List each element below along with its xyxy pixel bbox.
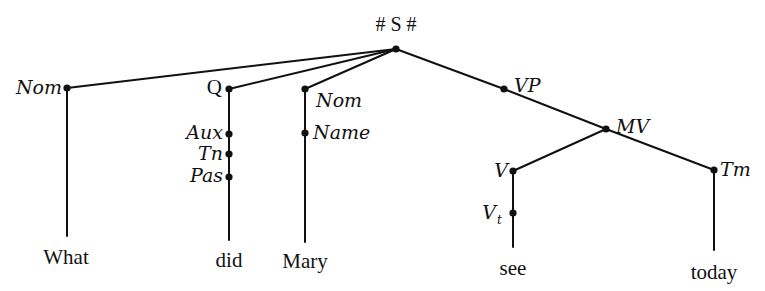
label-root-s: # S # (375, 13, 416, 35)
terminal-words: What did Mary see today (43, 245, 738, 284)
label-nom1: Nom (15, 76, 62, 98)
node-nom2 (301, 85, 308, 92)
word-today: today (691, 260, 738, 284)
node-nom1 (63, 84, 70, 91)
node-vt (509, 209, 516, 216)
edge-mv-v (513, 129, 606, 171)
node-q (225, 85, 232, 92)
node-vp (500, 85, 507, 92)
node-tn (225, 150, 232, 157)
label-mv: MV (615, 115, 651, 137)
label-vt-base: V (482, 201, 498, 223)
label-vp: VP (514, 74, 542, 96)
node-v (509, 167, 516, 174)
label-vt-subscript: t (497, 213, 502, 227)
edge-s-nom1 (67, 49, 396, 88)
word-what: What (43, 245, 89, 269)
tree-edges (67, 49, 714, 250)
syntax-tree-diagram: # S # Nom Q Nom Name Aux Tn Pas VP MV V … (0, 0, 765, 291)
word-see: see (500, 256, 527, 280)
label-tm: Tm (720, 158, 751, 180)
word-did: did (216, 248, 243, 272)
word-mary: Mary (282, 249, 328, 273)
node-name (301, 129, 308, 136)
node-tm (710, 166, 717, 173)
label-vt: V (482, 201, 498, 223)
node-s (392, 45, 399, 52)
label-nom2: Nom (315, 89, 362, 111)
label-pas: Pas (189, 164, 223, 186)
edge-s-q (229, 49, 396, 89)
node-pas (225, 173, 232, 180)
edge-s-vp (396, 49, 504, 89)
label-v: V (494, 159, 510, 181)
node-aux (225, 130, 232, 137)
label-name: Name (312, 121, 370, 143)
label-aux: Aux (184, 121, 223, 143)
node-mv (602, 125, 609, 132)
node-labels: # S # Nom Q Nom Name Aux Tn Pas VP MV V … (15, 13, 751, 227)
label-q: Q (207, 75, 222, 99)
label-tn: Tn (198, 142, 223, 164)
